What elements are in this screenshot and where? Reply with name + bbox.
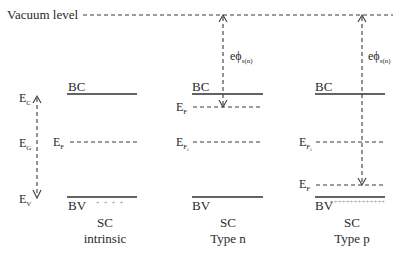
fermi-level-label: EF	[299, 177, 310, 193]
caption-line2: Type n	[210, 231, 246, 246]
conduction-band-label: BC	[315, 79, 332, 94]
n-type-semiconductor: BC EF EFi BV eϕs(n) SC Type n	[176, 15, 263, 246]
valence-band-label: BV	[192, 198, 211, 213]
caption-line1: SC	[97, 215, 113, 230]
ev-label: EV	[19, 192, 31, 208]
caption-line2: intrinsic	[84, 231, 127, 246]
ec-label: EC	[19, 91, 31, 107]
intrinsic-fermi-level-label: EFi	[299, 135, 312, 152]
caption-line1: SC	[344, 215, 360, 230]
fermi-level-label: EF	[53, 135, 64, 151]
fermi-level-label: EF	[176, 100, 187, 116]
conduction-band-label: BC	[68, 79, 85, 94]
valence-band-label: BV	[68, 198, 87, 213]
eg-label: EG	[19, 136, 31, 152]
conduction-band-label: BC	[192, 79, 209, 94]
p-type-semiconductor: BC EFi EF BV ++++++++++++++ eϕs(n) SC Ty…	[299, 15, 391, 246]
caption-line1: SC	[220, 215, 236, 230]
vacuum-level-label: Vacuum level	[7, 7, 79, 22]
band-gap-indicator: EC EG EV	[19, 91, 41, 208]
work-function-label: eϕs(n)	[230, 49, 253, 65]
intrinsic-semiconductor: BC EF BV + + + + SC intrinsic	[53, 79, 137, 246]
holes: ++++++++++++++	[330, 199, 386, 205]
holes: + + + +	[96, 200, 124, 206]
caption-line2: Type p	[334, 231, 370, 246]
vacuum-level: Vacuum level	[7, 7, 393, 22]
work-function-label: eϕs(n)	[368, 49, 391, 65]
energy-band-diagram: Vacuum level EC EG EV BC EF BV + + + + S…	[0, 0, 400, 259]
intrinsic-fermi-level-label: EFi	[176, 135, 189, 152]
